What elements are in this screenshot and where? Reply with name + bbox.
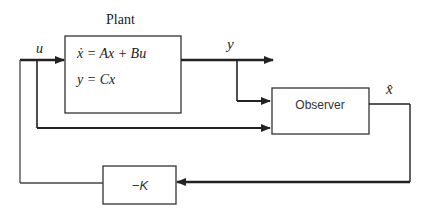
plant-output-equation: y = Cx bbox=[75, 72, 116, 87]
plant-state-equation: ẋ = Ax + Bu bbox=[76, 46, 146, 61]
observer-label: Observer bbox=[295, 98, 344, 112]
input-u-label: u bbox=[36, 41, 43, 56]
block-diagram: Plant ẋ = Ax + Bu y = Cx u y Observer x̂… bbox=[0, 0, 428, 211]
output-y-label: y bbox=[225, 36, 234, 52]
plant-title: Plant bbox=[106, 12, 135, 27]
gain-label: −K bbox=[132, 178, 150, 193]
estimate-xhat-label: x̂ bbox=[385, 81, 393, 97]
